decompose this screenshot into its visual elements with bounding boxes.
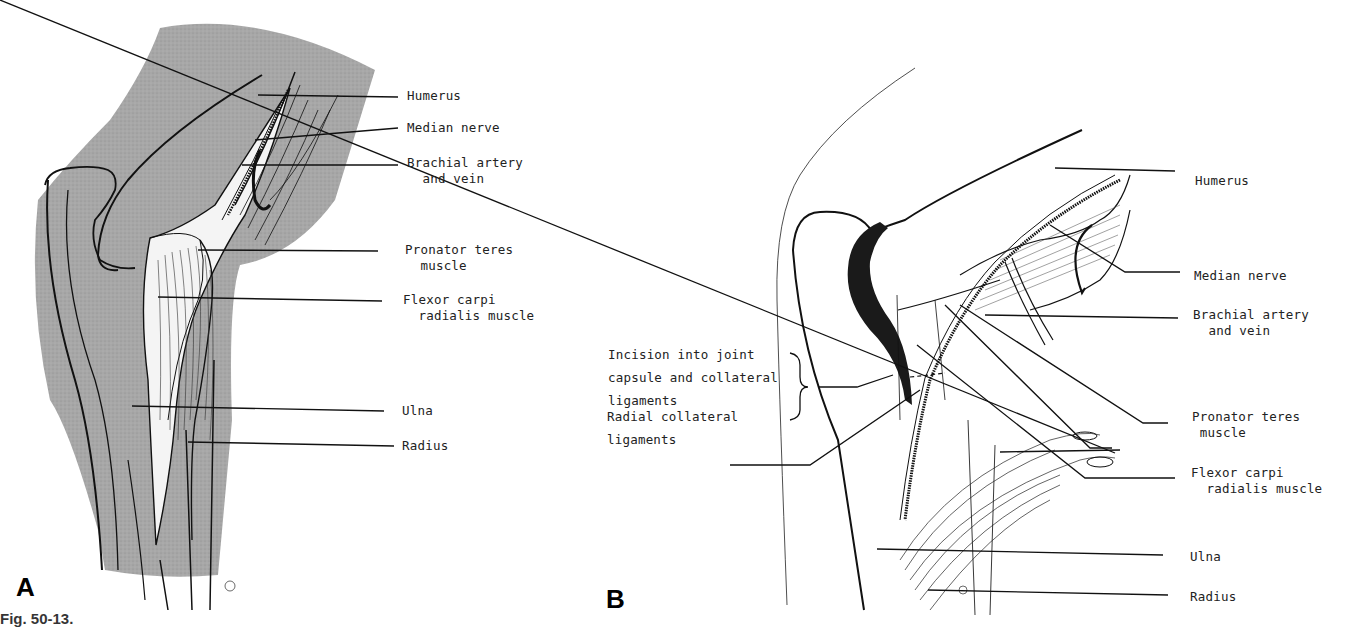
- panel-letter-a: A: [16, 572, 35, 603]
- label-a-radius: Radius: [402, 438, 448, 454]
- label-a-brachial-artery-vein: Brachial artery and vein: [407, 155, 523, 187]
- label-a-humerus: Humerus: [407, 88, 461, 104]
- label-b-median-nerve: Median nerve: [1194, 268, 1287, 284]
- panel-letter-b: B: [606, 584, 625, 615]
- label-b-incision: Incision into joint capsule and collater…: [608, 343, 778, 412]
- label-b-pronator-teres: Pronator teres muscle: [1192, 409, 1300, 441]
- label-a-pronator-teres: Pronator teres muscle: [405, 242, 513, 274]
- label-a-ulna: Ulna: [402, 403, 433, 419]
- figure-caption: Fig. 50-13.: [0, 610, 73, 627]
- label-b-brachial-artery-vein: Brachial artery and vein: [1193, 307, 1309, 339]
- label-b-radial-collateral: Radial collateral ligaments: [607, 405, 738, 451]
- label-b-flexor-carpi-radialis: Flexor carpi radialis muscle: [1191, 465, 1322, 497]
- label-a-median-nerve: Median nerve: [407, 120, 500, 136]
- joint-capsule-dark: [848, 222, 912, 405]
- label-a-flexor-carpi-radialis: Flexor carpi radialis muscle: [403, 292, 534, 324]
- label-b-radius: Radius: [1190, 589, 1236, 605]
- panel-a-illustration: [0, 0, 1350, 628]
- label-b-ulna: Ulna: [1190, 549, 1221, 565]
- label-b-humerus: Humerus: [1195, 173, 1249, 189]
